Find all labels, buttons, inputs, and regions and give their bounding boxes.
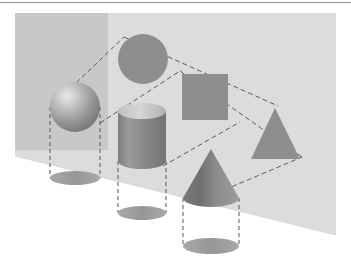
label-cone: Cone bbox=[2, 26, 12, 31]
label-cylinder: Cylinder bbox=[2, 20, 17, 25]
label-triangle: Triangle bbox=[2, 44, 17, 49]
cylinder-shadow bbox=[118, 206, 166, 220]
cylinder-solid bbox=[118, 103, 166, 169]
label-sphere: Sphere bbox=[2, 14, 16, 19]
sphere-solid bbox=[50, 82, 100, 132]
label-square: Square bbox=[2, 38, 16, 43]
figure-title: Projections of three-dimensional solids … bbox=[2, 50, 94, 55]
wall-shadow-band bbox=[15, 13, 108, 150]
circle-projection bbox=[118, 34, 168, 84]
label-circle: Circle bbox=[2, 32, 13, 37]
cone-shadow bbox=[183, 238, 239, 254]
sphere-shadow bbox=[50, 171, 100, 185]
top-horizontal-rule bbox=[0, 2, 351, 3]
page-root: Sphere Cylinder Cone Circle Square Trian… bbox=[0, 0, 351, 279]
cylinder-body bbox=[118, 111, 166, 169]
square-projection bbox=[182, 74, 228, 120]
cylinder-top-cap bbox=[118, 103, 166, 119]
geometry-scene-svg: Sphere Cylinder Cone Circle Square Trian… bbox=[0, 8, 351, 270]
figure-illustration: Sphere Cylinder Cone Circle Square Trian… bbox=[0, 8, 351, 270]
